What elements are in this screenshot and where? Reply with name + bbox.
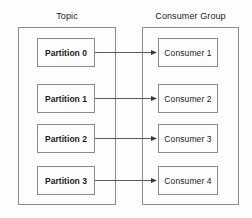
consumer-node-3-label: Consumer 4 [164, 176, 211, 186]
partition-node-1[interactable]: Partition 1 [37, 84, 95, 113]
partition-node-3-label: Partition 3 [45, 176, 87, 186]
consumer-node-3[interactable]: Consumer 4 [158, 166, 218, 195]
consumer-node-2-label: Consumer 3 [164, 134, 211, 144]
consumer-node-1-label: Consumer 2 [164, 94, 211, 104]
diagram-canvas: Topic Consumer Group Partition 0 Partiti… [0, 0, 252, 218]
partition-node-3[interactable]: Partition 3 [37, 166, 95, 195]
partition-node-0[interactable]: Partition 0 [37, 38, 95, 67]
consumer-node-2[interactable]: Consumer 3 [158, 124, 218, 153]
partition-node-2[interactable]: Partition 2 [37, 124, 95, 153]
partition-node-2-label: Partition 2 [45, 134, 87, 144]
consumer-node-1[interactable]: Consumer 2 [158, 84, 218, 113]
consumer-node-0-label: Consumer 1 [164, 48, 211, 58]
topic-group-label: Topic [18, 11, 116, 22]
partition-node-1-label: Partition 1 [45, 94, 87, 104]
partition-node-0-label: Partition 0 [45, 48, 87, 58]
consumer-node-0[interactable]: Consumer 1 [158, 38, 218, 67]
consumer-group-label: Consumer Group [142, 11, 239, 22]
